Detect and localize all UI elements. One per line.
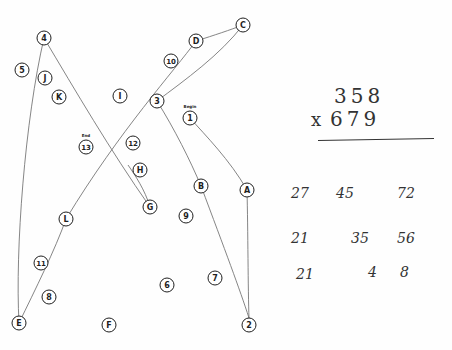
- row1-col3: 72: [397, 185, 415, 201]
- scanned-test-sheet: 45JKIDC10311312HBAG9L11867EF2 Begin End …: [0, 0, 452, 350]
- trail-node-g: G: [143, 200, 158, 215]
- trail-lines: [0, 0, 452, 350]
- trail-node-h: H: [133, 163, 148, 178]
- multiplier: 679: [330, 107, 380, 131]
- row2-col2: 35: [351, 230, 369, 246]
- trail-node-7: 7: [208, 271, 223, 286]
- trail-node-l: L: [59, 212, 74, 227]
- trail-node-6: 6: [160, 278, 175, 293]
- multiplicand: 358: [334, 84, 384, 108]
- trail-node-d: D: [189, 34, 204, 49]
- trail-node-9: 9: [179, 209, 194, 224]
- trail-segment: [247, 190, 249, 318]
- trail-node-3: 3: [150, 94, 165, 109]
- row3-col3: 8: [400, 264, 409, 280]
- trail-node-a: A: [240, 183, 255, 198]
- trail-segment: [19, 219, 66, 323]
- trail-node-b: B: [194, 179, 209, 194]
- trail-node-13: 13: [79, 140, 94, 155]
- trail-node-i: I: [113, 89, 128, 104]
- trail-node-2: 2: [242, 318, 257, 333]
- trail-node-f: F: [102, 318, 117, 333]
- row1-col1: 27: [291, 185, 309, 201]
- trail-node-11: 11: [34, 256, 49, 271]
- row3-col2: 4: [368, 264, 377, 280]
- trail-node-4: 4: [37, 31, 52, 46]
- trail-node-12: 12: [126, 136, 141, 151]
- row3-col1: 21: [296, 266, 314, 282]
- end-annotation: End: [82, 133, 90, 138]
- trail-node-1: 1: [183, 111, 198, 126]
- trail-segment: [66, 41, 196, 219]
- trail-node-10: 10: [164, 54, 179, 69]
- trail-node-e: E: [12, 316, 27, 331]
- trail-node-8: 8: [42, 290, 57, 305]
- row1-col2: 45: [336, 185, 354, 201]
- trail-node-c: C: [236, 18, 251, 33]
- row2-col3: 56: [397, 230, 415, 246]
- trail-node-k: K: [52, 90, 67, 105]
- trail-node-5: 5: [15, 63, 30, 78]
- row2-col1: 21: [291, 230, 309, 246]
- begin-annotation: Begin: [184, 104, 197, 109]
- trail-segment: [44, 38, 150, 207]
- trail-segment: [201, 186, 249, 318]
- times-sign: x: [311, 109, 321, 130]
- trail-node-j: J: [38, 71, 53, 86]
